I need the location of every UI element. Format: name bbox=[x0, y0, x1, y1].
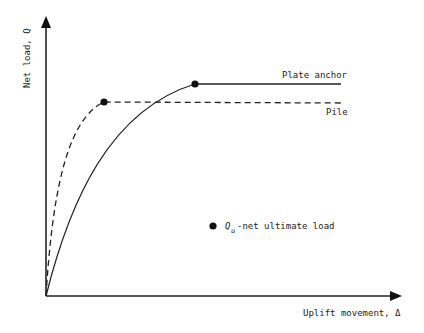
pile-ultimate-point bbox=[100, 98, 107, 105]
plate-anchor-ultimate-point bbox=[191, 80, 198, 87]
load-movement-chart: Net load, Q Uplift movement, Δ Plate anc… bbox=[0, 0, 424, 333]
legend-text: -net ultimate load bbox=[237, 221, 335, 231]
x-axis-label: Uplift movement, Δ bbox=[303, 308, 401, 318]
legend-marker-icon bbox=[209, 222, 216, 229]
pile-label: Pile bbox=[326, 107, 348, 117]
plate-anchor-label: Plate anchor bbox=[282, 70, 348, 80]
x-axis-arrow-icon bbox=[390, 291, 402, 301]
y-axis-label: Net load, Q bbox=[22, 28, 32, 88]
pile-curve bbox=[46, 102, 341, 296]
plate-anchor-curve bbox=[46, 84, 341, 296]
legend-q-subscript: u bbox=[231, 227, 235, 235]
y-axis-arrow-icon bbox=[41, 16, 51, 28]
